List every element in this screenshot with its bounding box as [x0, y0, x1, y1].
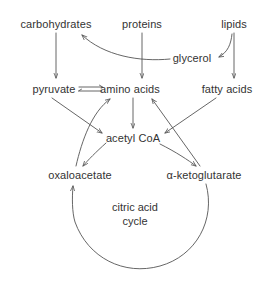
edge-acetyl-coa-to-alpha-ketoglutarate [160, 144, 196, 166]
node-glycerol: glycerol [173, 52, 212, 65]
cycle-label-line2: cycle [122, 214, 147, 228]
edge-pyruvate-to-acetyl-coa [52, 98, 102, 133]
node-amino-acids: amino acids [100, 83, 160, 96]
node-acetyl-coa: acetyl CoA [106, 132, 160, 145]
cycle-label-line1: citric acid [112, 200, 158, 214]
node-alpha-ketoglutarate: α-ketoglutarate [166, 169, 241, 182]
edge-oxaloacetate-to-amino-acids [76, 99, 110, 166]
edge-lipids-to-glycerol [219, 34, 232, 57]
edge-glycerol-to-carbohydrates [82, 35, 170, 60]
node-carbohydrates: carbohydrates [20, 18, 91, 31]
node-pyruvate: pyruvate [33, 83, 76, 96]
metabolic-pathway-diagram: carbohydrates proteins lipids glycerol p… [0, 0, 270, 283]
node-fatty-acids: fatty acids [202, 83, 253, 96]
node-oxaloacetate: oxaloacetate [48, 169, 112, 182]
node-proteins: proteins [122, 18, 162, 31]
edge-pyruvate-amino-acids-reversible [79, 85, 103, 91]
node-lipids: lipids [221, 18, 247, 31]
edge-acetyl-coa-to-oxaloacetate [83, 143, 106, 166]
